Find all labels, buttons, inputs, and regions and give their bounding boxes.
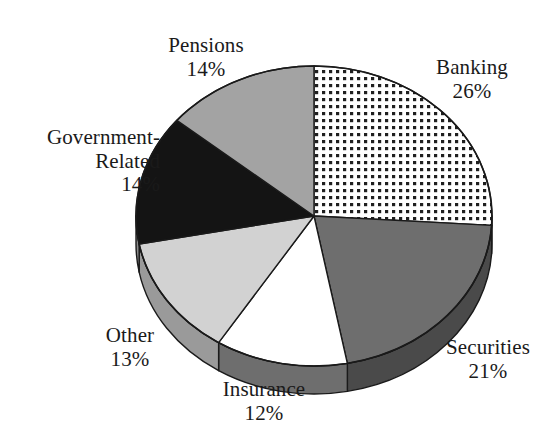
- slice-label-other-value: 13%: [78, 348, 182, 372]
- slice-label-government-related-value: 14%: [10, 173, 160, 197]
- slice-label-banking: Banking 26%: [406, 56, 538, 103]
- slice-label-securities-value: 21%: [424, 360, 552, 384]
- slice-label-securities-name: Securities: [424, 336, 552, 360]
- slice-label-banking-value: 26%: [406, 80, 538, 104]
- slice-label-insurance-value: 12%: [196, 402, 332, 426]
- slice-label-securities: Securities 21%: [424, 336, 552, 383]
- slice-label-insurance: Insurance 12%: [196, 378, 332, 425]
- slice-label-government-related-name-line1: Government-: [10, 126, 160, 150]
- slice-label-other-name: Other: [78, 324, 182, 348]
- slice-label-insurance-name: Insurance: [196, 378, 332, 402]
- slice-label-other: Other 13%: [78, 324, 182, 371]
- slice-label-pensions: Pensions 14%: [144, 34, 268, 81]
- pie-chart-figure: Pensions 14% Banking 26% Government- Rel…: [0, 0, 559, 429]
- slice-label-banking-name: Banking: [406, 56, 538, 80]
- slice-label-pensions-name: Pensions: [144, 34, 268, 58]
- slice-label-government-related-name-line2: Related: [10, 150, 160, 174]
- slice-label-pensions-value: 14%: [144, 58, 268, 82]
- slice-label-government-related: Government- Related 14%: [10, 126, 160, 197]
